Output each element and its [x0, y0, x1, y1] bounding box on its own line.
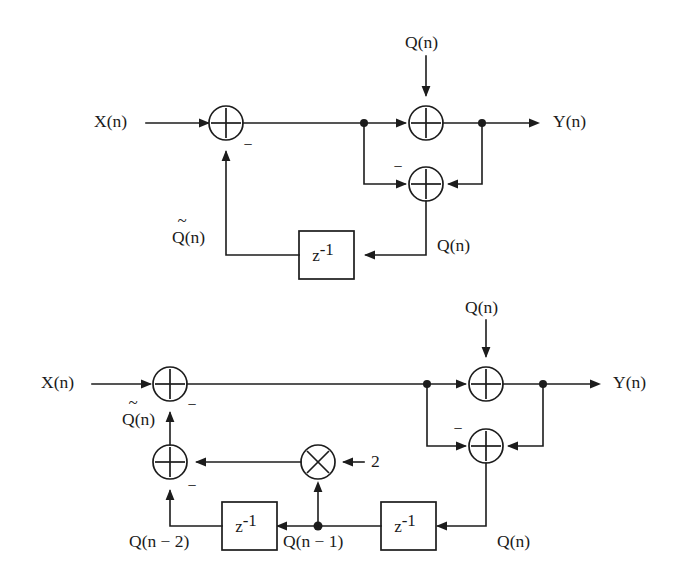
label-input-x-2: X(n)	[41, 372, 74, 392]
wire-error-to-delay	[366, 201, 426, 255]
wire-pre-quantizer-to-error-adder-2	[427, 384, 465, 446]
sign-minus-input-adder-2: −	[187, 396, 196, 413]
arrowhead-delay-one-input	[436, 522, 447, 531]
arrowhead-noise-adder-2	[482, 347, 491, 358]
arrowhead-feedback-input-adder-2	[166, 411, 175, 422]
wire-delay-two-to-feedback-adder	[170, 491, 222, 526]
adder-input-node	[209, 106, 243, 140]
arrowhead-input-adder-2	[141, 380, 152, 389]
arrowhead-noise-adder	[422, 86, 431, 97]
figure-root: X(n) − Q(n) Y(n)	[0, 0, 688, 586]
label-gain-coefficient: 2	[371, 451, 380, 471]
arrowhead-delay-input	[364, 251, 375, 260]
label-input-x: X(n)	[94, 111, 127, 131]
arrowhead-error-adder-left-2	[456, 442, 467, 451]
arrowhead-output-2	[590, 380, 601, 389]
wire-output-to-error-adder-2	[509, 384, 543, 446]
diagram-second-order: X(n) − Q(n) Y(n)	[41, 297, 646, 551]
label-feedback-estimate-base-2: Q(n)	[122, 409, 155, 429]
label-quantization-error-2: Q(n)	[497, 531, 530, 551]
arrowhead-error-adder-left	[396, 180, 407, 189]
sign-minus-error-adder-2: −	[453, 420, 462, 437]
arrowhead-tap-noise-adder-2	[456, 380, 467, 389]
arrowhead-feedback-adder-right	[195, 458, 206, 467]
arrowhead-feedback-input-adder	[222, 150, 231, 161]
label-feedback-estimate-2: ~ Q(n)	[122, 393, 155, 429]
wire-error-to-delay-one	[438, 463, 486, 526]
arrowhead-gain-multiplier	[342, 458, 353, 467]
arrowhead-feedback-adder-bottom	[166, 489, 175, 500]
arrowhead-multiplier-input	[314, 481, 323, 492]
adder-noise-node	[409, 106, 443, 140]
label-quantization-error: Q(n)	[437, 235, 470, 255]
label-feedback-estimate-base: Q(n)	[172, 227, 205, 247]
arrowhead-tap-noise-adder	[396, 119, 407, 128]
wire-pre-quantizer-to-error-adder	[364, 123, 405, 184]
adder-noise-node-2	[469, 367, 503, 401]
adder-feedback-node-2	[153, 445, 187, 479]
adder-input-node-2	[153, 367, 187, 401]
sign-minus-error-adder: −	[393, 158, 402, 175]
adder-error-node-2	[469, 429, 503, 463]
sign-minus-feedback-adder-bottom: −	[187, 477, 196, 494]
diagram-first-order: X(n) − Q(n) Y(n)	[94, 32, 586, 279]
label-tap-one: Q(n − 1)	[283, 531, 344, 551]
label-noise-source-2: Q(n)	[465, 297, 498, 317]
adder-error-node	[409, 167, 443, 201]
wire-output-to-error-adder	[449, 123, 482, 184]
label-tap-two: Q(n − 2)	[129, 531, 190, 551]
wire-delay-to-input-adder	[226, 152, 299, 255]
label-feedback-estimate: ~ Q(n)	[172, 211, 205, 247]
label-output-y-2: Y(n)	[613, 372, 646, 392]
arrowhead-output	[529, 119, 540, 128]
label-output-y: Y(n)	[553, 111, 586, 131]
arrowhead-error-adder-right	[447, 180, 458, 189]
label-noise-source: Q(n)	[405, 32, 438, 52]
diagram-canvas: X(n) − Q(n) Y(n)	[0, 0, 688, 586]
sign-minus-input-adder: −	[243, 136, 252, 153]
arrowhead-error-adder-right-2	[507, 442, 518, 451]
multiplier-node	[301, 445, 335, 479]
